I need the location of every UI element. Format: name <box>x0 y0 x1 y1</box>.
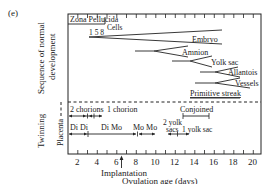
y-axis-label-placenta: Placenta <box>56 118 65 146</box>
svg-text:14: 14 <box>190 157 200 167</box>
svg-text:18: 18 <box>229 157 239 167</box>
yolk-sac-label: Yolk sac <box>211 58 239 67</box>
allantois-label: Allantois <box>228 68 257 77</box>
y-axis-label-upper-line2: development <box>47 33 57 80</box>
chorion-range-arrows <box>69 114 102 119</box>
svg-text:12: 12 <box>170 157 179 167</box>
svg-text:4: 4 <box>95 157 100 167</box>
primitive-streak-label: Primitive streak <box>190 89 241 98</box>
svg-text:20: 20 <box>248 157 258 167</box>
svg-text:10: 10 <box>151 157 161 167</box>
cells-label: Cells <box>107 23 122 32</box>
y-axis-label-twinning: Twinning <box>36 113 46 148</box>
two-chorions-label: 2 chorions <box>70 105 104 114</box>
embryo-label: Embryo <box>192 35 218 44</box>
di-mo-label: Di Mo <box>101 123 122 132</box>
embryo-development-timeline-diagram: (e) Sequence of normal development Twinn… <box>0 0 274 184</box>
one-chorion-label: 1 chorion <box>107 105 137 114</box>
two-yolk-sacs-label-line2: sacs <box>166 125 179 134</box>
one-yolk-sac-label: 1 yolk sac <box>182 125 213 134</box>
implantation-arrow-icon <box>120 156 124 169</box>
x-tick-labels: 2 4 6 8 10 12 14 16 18 20 <box>75 157 258 167</box>
di-di-label: Di Di <box>70 123 89 132</box>
vessels-label: Vessels <box>235 79 259 88</box>
x-axis-title: Ovulation age (days) <box>122 176 197 184</box>
panel-label: (e) <box>8 8 18 18</box>
svg-text:2: 2 <box>75 157 80 167</box>
svg-text:16: 16 <box>209 157 219 167</box>
y-axis-label-upper-line1: Sequence of normal <box>36 22 46 94</box>
svg-text:6: 6 <box>114 157 119 167</box>
bottom-ticks <box>78 150 254 154</box>
conjoined-label: Conjoined <box>180 105 213 114</box>
cell-counts-label: 1 5 8 <box>89 28 104 37</box>
amnion-label: Amnion <box>182 48 208 57</box>
svg-text:8: 8 <box>134 157 139 167</box>
mo-mo-label: Mo Mo <box>133 123 157 132</box>
